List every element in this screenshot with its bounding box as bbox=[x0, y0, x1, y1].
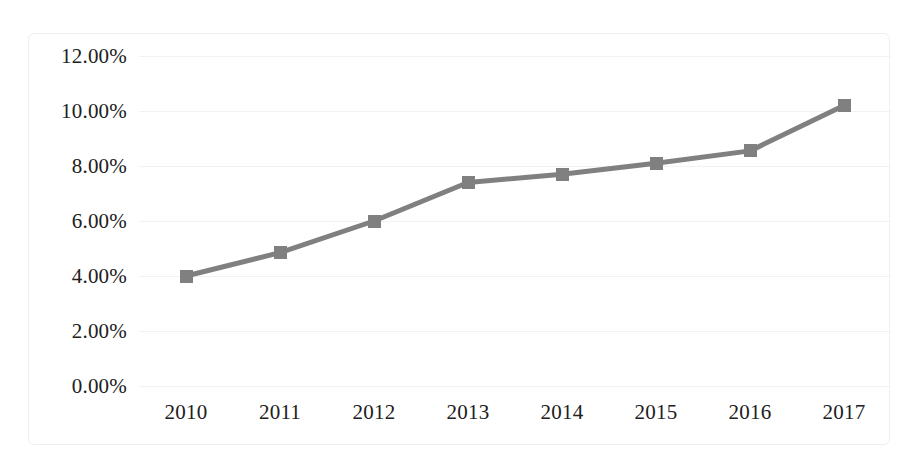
gridline bbox=[139, 386, 891, 387]
y-axis-tick-label: 10.00% bbox=[61, 99, 127, 124]
x-axis-tick-label: 2017 bbox=[823, 400, 866, 425]
x-axis-tick-label: 2016 bbox=[729, 400, 772, 425]
x-axis-tick-label: 2014 bbox=[541, 400, 584, 425]
y-axis-tick-label: 8.00% bbox=[72, 154, 127, 179]
data-point-marker bbox=[556, 168, 569, 181]
data-point-marker bbox=[180, 270, 193, 283]
y-axis-tick-label: 2.00% bbox=[72, 319, 127, 344]
plot-area: 0.00%2.00%4.00%6.00%8.00%10.00%12.00% 20… bbox=[139, 56, 891, 386]
x-axis-tick-label: 2013 bbox=[447, 400, 490, 425]
data-point-marker bbox=[744, 144, 757, 157]
y-axis-tick-label: 4.00% bbox=[72, 264, 127, 289]
x-axis-tick-label: 2011 bbox=[259, 400, 301, 425]
y-axis-tick-label: 0.00% bbox=[72, 374, 127, 399]
y-axis-tick-label: 6.00% bbox=[72, 209, 127, 234]
x-axis-tick-label: 2015 bbox=[635, 400, 678, 425]
data-point-marker bbox=[462, 176, 475, 189]
data-point-marker bbox=[838, 99, 851, 112]
line-series bbox=[139, 56, 891, 386]
chart-card: 0.00%2.00%4.00%6.00%8.00%10.00%12.00% 20… bbox=[28, 33, 890, 445]
x-axis-tick-label: 2010 bbox=[165, 400, 208, 425]
data-point-marker bbox=[368, 215, 381, 228]
y-axis-tick-label: 12.00% bbox=[61, 44, 127, 69]
data-point-marker bbox=[274, 246, 287, 259]
data-point-marker bbox=[650, 157, 663, 170]
x-axis-tick-label: 2012 bbox=[353, 400, 396, 425]
